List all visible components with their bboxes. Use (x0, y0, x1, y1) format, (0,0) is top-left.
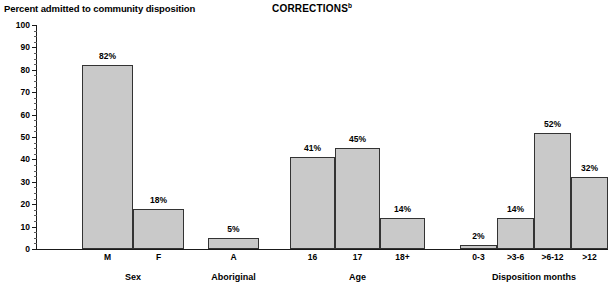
y-tick-minor (34, 171, 37, 172)
bar-value-label: 14% (394, 205, 411, 214)
category-label: >12 (582, 253, 596, 262)
y-tick-label: 80 (4, 66, 30, 75)
y-tick-major (32, 92, 37, 93)
group-label: Aboriginal (211, 273, 256, 282)
bar (208, 238, 259, 249)
corrections-bar-chart: Percent admitted to community dispositio… (0, 0, 616, 296)
y-tick-minor (34, 98, 37, 99)
category-label: F (156, 253, 161, 262)
y-tick-minor (34, 176, 37, 177)
category-label: 18+ (395, 253, 409, 262)
chart-title-footnote-marker: b (348, 2, 352, 9)
y-tick-label: 40 (4, 155, 30, 164)
bar-value-label: 14% (507, 205, 524, 214)
y-tick-minor (34, 75, 37, 76)
y-tick-minor (34, 109, 37, 110)
category-label: 0-3 (472, 253, 484, 262)
y-tick-label: 50 (4, 133, 30, 142)
bar-value-label: 52% (544, 120, 561, 129)
y-tick-label: 0 (4, 245, 30, 254)
bar (571, 177, 608, 249)
y-tick-minor (34, 64, 37, 65)
y-tick-minor (34, 59, 37, 60)
category-label: M (104, 253, 111, 262)
group-label: Disposition months (492, 273, 576, 282)
category-label: >3-6 (507, 253, 524, 262)
y-tick-minor (34, 232, 37, 233)
y-tick-minor (34, 165, 37, 166)
bar (335, 148, 380, 249)
y-tick-major (32, 159, 37, 160)
chart-title-text: CORRECTIONS (272, 3, 348, 14)
y-tick-label: 90 (4, 43, 30, 52)
bar-value-label: 45% (349, 135, 366, 144)
y-tick-label: 70 (4, 88, 30, 97)
y-tick-minor (34, 199, 37, 200)
y-tick-major (32, 115, 37, 116)
y-tick-minor (34, 215, 37, 216)
bar (82, 65, 133, 249)
y-tick-label: 60 (4, 111, 30, 120)
y-tick-minor (34, 131, 37, 132)
y-tick-major (32, 204, 37, 205)
y-tick-label: 10 (4, 223, 30, 232)
plot-area: 0102030405060708090100 82%18%5%41%45%14%… (36, 25, 608, 249)
bar (290, 157, 335, 249)
y-tick-label: 30 (4, 178, 30, 187)
bar-value-label: 82% (99, 52, 116, 61)
bar (133, 209, 184, 249)
group-label: Sex (125, 273, 141, 282)
y-tick-minor (34, 193, 37, 194)
y-tick-major (32, 25, 37, 26)
y-tick-major (32, 70, 37, 71)
bar-value-label: 5% (227, 225, 239, 234)
y-tick-minor (34, 210, 37, 211)
y-tick-label: 100 (4, 21, 30, 30)
bar-value-label: 18% (150, 196, 167, 205)
bar (380, 218, 425, 249)
y-tick-minor (34, 143, 37, 144)
y-tick-minor (34, 238, 37, 239)
y-tick-minor (34, 103, 37, 104)
y-tick-minor (34, 42, 37, 43)
y-tick-minor (34, 187, 37, 188)
chart-title: CORRECTIONSb (272, 3, 352, 14)
y-tick-minor (34, 81, 37, 82)
group-label: Age (349, 273, 366, 282)
y-tick-label: 20 (4, 200, 30, 209)
y-tick-major (32, 227, 37, 228)
y-tick-minor (34, 221, 37, 222)
x-axis-line (36, 249, 608, 250)
y-tick-minor (34, 87, 37, 88)
category-label: >6-12 (542, 253, 564, 262)
category-label: 17 (353, 253, 362, 262)
bar (534, 133, 571, 249)
y-tick-major (32, 137, 37, 138)
bar-value-label: 2% (472, 232, 484, 241)
y-tick-minor (34, 31, 37, 32)
y-tick-minor (34, 36, 37, 37)
bar-value-label: 41% (304, 144, 321, 153)
category-label: 16 (308, 253, 317, 262)
y-tick-minor (34, 154, 37, 155)
bar (497, 218, 534, 249)
y-tick-minor (34, 243, 37, 244)
y-tick-major (32, 47, 37, 48)
y-tick-minor (34, 120, 37, 121)
bar (460, 245, 497, 249)
bar-value-label: 32% (581, 164, 598, 173)
y-tick-major (32, 249, 37, 250)
y-tick-minor (34, 53, 37, 54)
chart-subtitle: Percent admitted to community dispositio… (4, 3, 195, 14)
y-tick-minor (34, 148, 37, 149)
category-label: A (230, 253, 236, 262)
y-tick-major (32, 182, 37, 183)
y-tick-minor (34, 126, 37, 127)
